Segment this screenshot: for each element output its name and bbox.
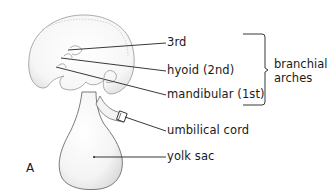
label-3rd-arch: 3rd bbox=[167, 37, 186, 49]
yolk-sac-shape bbox=[59, 92, 122, 190]
label-umbilical-cord: umbilical cord bbox=[167, 125, 249, 137]
label-branchial-line2: arches bbox=[274, 71, 327, 85]
panel-letter: A bbox=[26, 161, 34, 175]
embryo-body-shape bbox=[29, 15, 135, 94]
embryo-diagram: 3rd hyoid (2nd) mandibular (1st) umbilic… bbox=[0, 0, 334, 196]
label-hyoid-arch: hyoid (2nd) bbox=[167, 65, 234, 77]
label-mandibular-arch: mandibular (1st) bbox=[167, 89, 265, 101]
leader-umbilical-cord bbox=[125, 117, 166, 131]
label-branchial-arches: branchial arches bbox=[274, 57, 327, 85]
label-yolk-sac: yolk sac bbox=[167, 151, 215, 163]
label-branchial-line1: branchial bbox=[274, 57, 327, 71]
